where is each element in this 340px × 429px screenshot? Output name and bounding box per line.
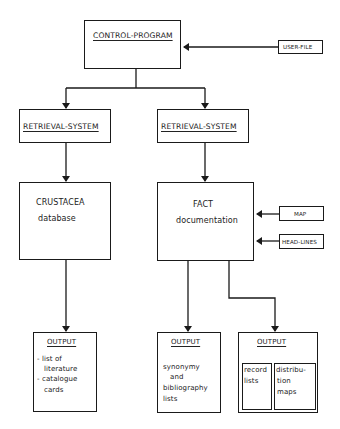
retrieval-system-left-box: RETRIEVAL-SYSTEM xyxy=(19,109,111,143)
fact-subtitle: documentation xyxy=(176,216,238,225)
map-label: MAP xyxy=(294,211,306,217)
output-literature-box: OUTPUT - list of literature - catalogue … xyxy=(33,332,97,412)
retrieval-system-right-label: RETRIEVAL-SYSTEM xyxy=(161,122,237,131)
output-2-line: lists xyxy=(163,395,177,404)
output-2-line: synonymy xyxy=(163,363,200,372)
distribution-maps-line: distribu- xyxy=(276,366,306,375)
user-file-box: USER-FILE xyxy=(278,40,323,54)
record-lists-line: lists xyxy=(244,377,258,386)
output-maps-box: OUTPUT record lists distribu- tion maps xyxy=(238,332,318,413)
distribution-maps-line: tion xyxy=(277,377,291,386)
record-lists-box: record lists xyxy=(242,363,272,410)
head-lines-label: HEAD-LINES xyxy=(282,239,317,245)
fact-title: FACT xyxy=(193,200,213,209)
output-1-line: literature xyxy=(44,365,77,374)
distribution-maps-box: distribu- tion maps xyxy=(274,363,316,410)
output-1-line: - catalogue xyxy=(37,375,77,384)
fact-documentation-box: FACT documentation xyxy=(157,182,254,261)
record-lists-line: record xyxy=(244,366,267,375)
control-program-label: CONTROL-PROGRAM xyxy=(93,31,173,40)
retrieval-system-left-label: RETRIEVAL-SYSTEM xyxy=(23,122,99,131)
user-file-label: USER-FILE xyxy=(283,44,312,50)
crustacea-database-box: CRUSTACEA database xyxy=(19,182,111,260)
output-1-line: cards xyxy=(44,386,63,395)
retrieval-system-right-box: RETRIEVAL-SYSTEM xyxy=(157,109,249,143)
output-2-line: and xyxy=(170,373,183,382)
head-lines-box: HEAD-LINES xyxy=(279,234,324,249)
crustacea-subtitle: database xyxy=(38,214,76,223)
distribution-maps-line: maps xyxy=(277,388,297,397)
output-1-line: - list of xyxy=(37,355,62,364)
output-2-title: OUTPUT xyxy=(171,338,200,347)
control-program-box: CONTROL-PROGRAM xyxy=(84,20,181,69)
output-synonymy-box: OUTPUT synonymy and bibliography lists xyxy=(157,332,221,413)
map-box: MAP xyxy=(279,206,324,221)
output-3-title: OUTPUT xyxy=(257,338,286,347)
crustacea-title: CRUSTACEA xyxy=(36,198,85,207)
output-1-title: OUTPUT xyxy=(47,338,76,347)
output-2-line: bibliography xyxy=(163,384,208,393)
